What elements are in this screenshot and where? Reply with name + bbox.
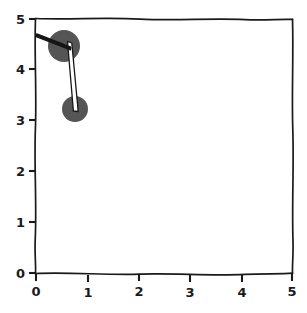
y-tick-label-1: 1 bbox=[16, 215, 25, 230]
y-tick-label-2: 2 bbox=[16, 164, 25, 179]
x-tick-label-4: 4 bbox=[237, 285, 246, 300]
y-tick-label-4: 4 bbox=[16, 62, 25, 77]
plot-background bbox=[0, 0, 307, 313]
x-tick-label-0: 0 bbox=[31, 284, 40, 299]
spine-left bbox=[35, 19, 36, 274]
scatter-plot-figure: 0 1 2 3 4 5 0 1 2 3 4 5 bbox=[0, 0, 307, 313]
x-tick-label-5: 5 bbox=[287, 284, 296, 299]
y-tick-label-3: 3 bbox=[16, 113, 25, 128]
y-tick-label-5: 5 bbox=[16, 12, 25, 27]
spine-right bbox=[292, 19, 293, 273]
y-tick-label-0: 0 bbox=[16, 266, 25, 281]
x-tick-label-3: 3 bbox=[185, 285, 194, 300]
x-tick-label-2: 2 bbox=[134, 284, 143, 299]
figure-canvas: 0 1 2 3 4 5 0 1 2 3 4 5 bbox=[0, 0, 307, 313]
x-tick-label-1: 1 bbox=[83, 285, 92, 300]
